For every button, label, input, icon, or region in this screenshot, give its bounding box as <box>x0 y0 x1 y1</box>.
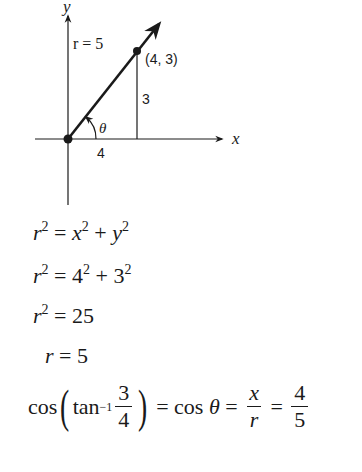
cos-theta: cos <box>174 396 209 418</box>
eq5-equals-2: = <box>220 396 243 418</box>
equation-substitution: r2 = 42 + 32 <box>33 265 131 287</box>
horizontal-leg-label: 4 <box>97 145 105 161</box>
radius-label: r = 5 <box>73 35 103 52</box>
cos-function: cos <box>28 396 57 418</box>
eq3-lhs-exp: 2 <box>42 302 49 317</box>
eq2-lhs: r <box>33 263 42 288</box>
eq2-a: 4 <box>72 263 83 288</box>
eq2-a-exp: 2 <box>83 262 90 277</box>
origin-point <box>64 135 73 144</box>
tan-function: tan <box>73 396 100 418</box>
frac3-den: 5 <box>291 406 308 431</box>
eq4-equals: = <box>54 343 77 368</box>
fraction-3-over-4: 3 4 <box>115 382 132 431</box>
eq5-equals-1: = <box>151 396 174 418</box>
eq4-lhs: r <box>45 343 54 368</box>
eq1-plus: + <box>89 220 112 245</box>
right-paren: ) <box>138 384 147 430</box>
eq1-b: y <box>112 220 122 245</box>
eq5-equals-3: = <box>265 396 288 418</box>
fraction-x-over-r: x r <box>246 382 262 431</box>
eq1-a-exp: 2 <box>82 219 89 234</box>
frac1-den: 4 <box>115 406 132 431</box>
eq1-a: x <box>72 220 82 245</box>
equation-pythagorean: r2 = x2 + y2 <box>33 222 129 244</box>
y-axis-label: y <box>61 0 71 16</box>
eq3-lhs: r <box>33 303 42 328</box>
angle-label: θ <box>99 120 107 136</box>
point-label: (4, 3) <box>145 51 178 67</box>
frac2-num: x <box>246 382 262 406</box>
eq1-lhs-exp: 2 <box>42 219 49 234</box>
unit-triangle-diagram: y x r = 5 (4, 3) 3 4 θ <box>0 0 362 215</box>
angle-arc <box>86 117 96 139</box>
point-4-3 <box>133 47 141 55</box>
vertical-leg-label: 3 <box>142 91 150 107</box>
theta-symbol: θ <box>209 396 220 418</box>
eq4-rhs: 5 <box>77 343 88 368</box>
equation-r: r = 5 <box>45 345 88 367</box>
left-paren: ( <box>60 384 69 430</box>
equation-r-squared: r2 = 25 <box>33 305 94 327</box>
eq2-equals: = <box>49 263 72 288</box>
eq2-b: 3 <box>113 263 124 288</box>
eq1-equals: = <box>49 220 72 245</box>
equation-cos-arctan: cos ( tan−1 3 4 ) = cos θ = x r = 4 5 <box>28 382 311 431</box>
x-axis-label: x <box>231 129 240 148</box>
frac3-num: 4 <box>291 382 308 406</box>
frac2-den: r <box>247 406 262 431</box>
eq2-lhs-exp: 2 <box>42 262 49 277</box>
frac1-num: 3 <box>115 382 132 406</box>
eq3-equals: = <box>49 303 72 328</box>
eq1-b-exp: 2 <box>122 219 129 234</box>
eq2-b-exp: 2 <box>124 262 131 277</box>
eq1-lhs: r <box>33 220 42 245</box>
eq2-plus: + <box>90 263 113 288</box>
eq3-rhs: 25 <box>72 303 94 328</box>
fraction-4-over-5: 4 5 <box>291 382 308 431</box>
